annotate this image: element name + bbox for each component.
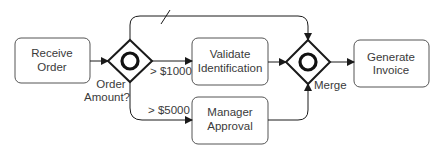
task-label: Order: [37, 61, 67, 73]
gateway-merge[interactable]: Merge: [286, 40, 347, 91]
gateway-label: Merge: [314, 79, 347, 91]
default-flow-slash: [161, 10, 170, 24]
task-label: Generate: [367, 51, 415, 63]
task-label: Receive: [31, 47, 73, 59]
bpmn-diagram: Receive Order Validate Identification Ma…: [0, 0, 442, 153]
task-label: Identification: [198, 62, 263, 74]
task-label: Validate: [210, 48, 251, 60]
flow-label-gt1000: > $1000: [150, 65, 192, 77]
flow-default-top: [130, 16, 308, 40]
task-validate-identification[interactable]: Validate Identification: [192, 38, 268, 85]
gateway-label: Order: [96, 78, 126, 90]
task-receive-order[interactable]: Receive Order: [15, 38, 90, 83]
task-label: Invoice: [373, 64, 409, 76]
flow-manager-to-merge: [268, 84, 308, 120]
flow-label-gt5000: > $5000: [148, 104, 190, 116]
task-label: Approval: [207, 120, 252, 132]
gateway-split[interactable]: Order Amount?: [84, 40, 152, 103]
task-label: Manager: [207, 106, 253, 118]
gateway-label: Amount?: [84, 91, 130, 103]
task-generate-invoice[interactable]: Generate Invoice: [354, 40, 429, 87]
task-manager-approval[interactable]: Manager Approval: [192, 97, 268, 144]
